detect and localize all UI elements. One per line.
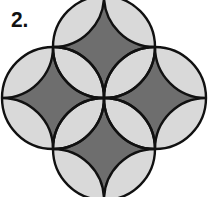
overlapping-circles-diagram: [0, 0, 211, 197]
